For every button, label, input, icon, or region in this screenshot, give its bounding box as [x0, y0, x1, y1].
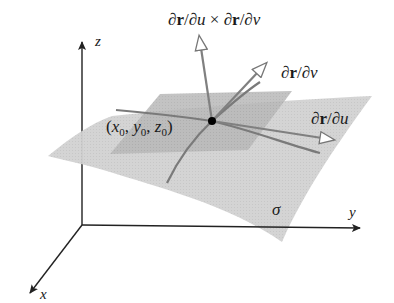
diagram-canvas: z y x σ (x0, y0, z0) ∂r/∂u × ∂r/∂v ∂r/∂v… — [0, 0, 394, 303]
surface-label: σ — [272, 200, 281, 219]
normal-vector-label: ∂r/∂u × ∂r/∂v — [168, 10, 261, 29]
x-axis — [30, 225, 82, 293]
surface-diagram: z y x σ (x0, y0, z0) ∂r/∂u × ∂r/∂v ∂r/∂v… — [0, 0, 394, 303]
x-axis-label: x — [39, 286, 47, 302]
ru-vector-label: ∂r/∂u — [311, 109, 349, 128]
point-marker — [208, 117, 216, 125]
rv-vector-label: ∂r/∂v — [281, 63, 318, 82]
z-axis-label: z — [94, 33, 101, 49]
y-axis-label: y — [347, 204, 356, 220]
y-axis — [82, 225, 360, 228]
